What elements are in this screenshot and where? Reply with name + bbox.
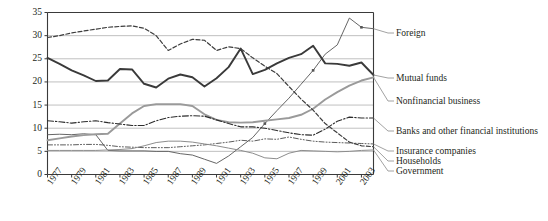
y-tick-label: 15 — [24, 100, 42, 110]
axis-ticks — [45, 13, 362, 178]
y-tick-label: 5 — [24, 146, 42, 156]
legend-label-foreign: Foreign — [396, 28, 426, 38]
chart-figure: 05101520253035 1977197919811983198519871… — [0, 0, 548, 221]
legend-label-nonfinancial-business: Nonfinancial business — [396, 96, 480, 106]
y-tick-label: 35 — [24, 7, 42, 17]
legend-label-insurance-companies: Insurance companies — [396, 146, 476, 156]
series-line-insurance-companies — [48, 137, 374, 148]
series-line-nonfinancial-business — [48, 77, 374, 140]
y-tick-label: 0 — [24, 169, 42, 179]
series-line-foreign — [48, 18, 374, 163]
series-line-mutual-funds — [48, 46, 374, 88]
y-tick-label: 25 — [24, 53, 42, 63]
series-line-banks-and-other-financial-institutions — [48, 116, 374, 135]
y-tick-label: 10 — [24, 123, 42, 133]
chart-plot-area — [0, 0, 548, 221]
legend-leader-lines — [374, 29, 395, 171]
y-tick-label: 20 — [24, 76, 42, 86]
legend-label-banks-and-other-financial-institutions: Banks and other financial institutions — [396, 126, 538, 136]
legend-label-mutual-funds: Mutual funds — [396, 73, 447, 83]
legend-label-households: Households — [396, 156, 441, 166]
legend-label-government: Government — [396, 166, 444, 176]
y-tick-label: 30 — [24, 30, 42, 40]
data-series-group — [48, 18, 374, 163]
